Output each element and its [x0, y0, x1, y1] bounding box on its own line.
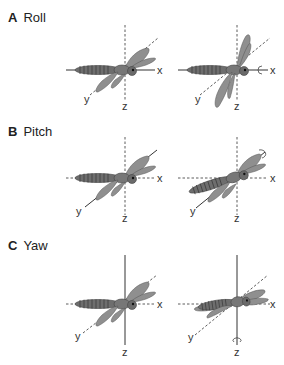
panel-c-yaw-right: x y z	[178, 255, 276, 358]
panel-c-yaw-left: x y z	[66, 255, 163, 358]
figure-canvas: x y z x y z x y z	[0, 0, 284, 365]
panel-title: Roll	[23, 10, 45, 25]
panel-b-pitch-right: x y z	[178, 137, 276, 224]
x-axis-label: x	[270, 172, 276, 184]
y-axis-label: y	[190, 205, 196, 217]
z-axis-label: z	[122, 346, 128, 358]
panel-b-heading: BPitch	[8, 124, 52, 139]
y-axis-label: y	[84, 93, 90, 105]
z-axis-label: z	[122, 100, 128, 112]
x-axis-label: x	[157, 172, 163, 184]
panel-c-heading: CYaw	[8, 238, 48, 253]
panel-letter: C	[8, 238, 17, 253]
panel-a-heading: ARoll	[8, 10, 46, 25]
y-axis-label: y	[76, 205, 82, 217]
panel-title: Pitch	[23, 124, 52, 139]
panel-letter: A	[8, 10, 17, 25]
x-axis-label: x	[270, 64, 276, 76]
x-axis-label: x	[157, 298, 163, 310]
z-axis-label: z	[234, 346, 240, 358]
panel-b-pitch-left: x y z	[66, 137, 163, 224]
z-axis-label: z	[234, 100, 240, 112]
z-axis-label: z	[234, 212, 240, 224]
x-axis-label: x	[157, 64, 163, 76]
panel-a-roll-left: x y z	[66, 25, 163, 112]
panel-title: Yaw	[23, 238, 47, 253]
z-axis-label: z	[122, 212, 128, 224]
y-axis-label: y	[188, 331, 194, 343]
panel-letter: B	[8, 124, 17, 139]
y-axis-label: y	[195, 93, 201, 105]
x-axis-label: x	[270, 298, 276, 310]
y-axis-label: y	[75, 330, 81, 342]
panel-a-roll-right: x y z	[178, 25, 276, 112]
